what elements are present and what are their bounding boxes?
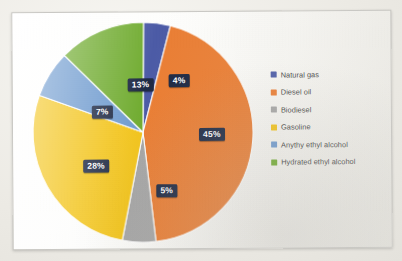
legend-item[interactable]: Hydrated ethyl alcohol: [271, 156, 387, 167]
data-label-natural-gas: 4%: [169, 74, 190, 87]
legend-item[interactable]: Biodiesel: [271, 104, 387, 115]
legend-swatch-icon: [271, 89, 277, 95]
legend-swatch-icon: [271, 107, 277, 113]
legend-swatch-icon: [271, 124, 277, 130]
legend-item-label: Diesel oil: [281, 87, 312, 96]
legend-item-label: Natural gas: [281, 70, 319, 79]
legend-item-label: Hydrated ethyl alcohol: [281, 157, 355, 166]
pie-chart-plot-area: 4% 45% 5% 28% 7% 13% Natural gasDiesel o…: [12, 11, 391, 249]
data-label-gasoline: 28%: [83, 160, 109, 173]
legend-item-label: Gasoline: [281, 122, 311, 131]
data-label-biodiesel: 5%: [156, 184, 177, 197]
screenshot-root: 4% 45% 5% 28% 7% 13% Natural gasDiesel o…: [0, 0, 402, 261]
legend-item[interactable]: Anythy ethyl alcohol: [271, 139, 387, 150]
legend-item[interactable]: Gasoline: [271, 121, 387, 132]
data-label-diesel-oil: 45%: [199, 128, 225, 141]
data-label-hydrated-ethyl-alcohol: 13%: [128, 78, 154, 91]
chart-legend: Natural gasDiesel oilBiodieselGasolineAn…: [271, 69, 388, 175]
data-label-anythy-ethyl-alcohol: 7%: [92, 106, 113, 119]
legend-item-label: Anythy ethyl alcohol: [281, 140, 348, 149]
legend-swatch-icon: [271, 159, 277, 165]
legend-swatch-icon: [271, 72, 277, 78]
legend-item[interactable]: Natural gas: [271, 69, 387, 80]
legend-swatch-icon: [271, 142, 277, 148]
legend-item-label: Biodiesel: [281, 105, 312, 114]
legend-item[interactable]: Diesel oil: [271, 86, 387, 97]
chart-card: 4% 45% 5% 28% 7% 13% Natural gasDiesel o…: [11, 10, 392, 250]
